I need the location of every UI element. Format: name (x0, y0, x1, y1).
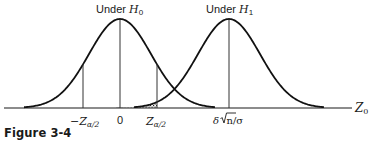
normal-distributions-figure: Under H0 Under H1 −Zα/2 0 Zα/2 δ n/σ Z0 (0, 0, 370, 147)
h1-mean-label: δ n/σ (213, 113, 243, 126)
zero-label: 0 (117, 114, 123, 126)
axis-label-z0: Z0 (354, 101, 368, 116)
svg-text:δ: δ (213, 115, 219, 126)
neg-z-alpha-half-label: −Zα/2 (70, 115, 99, 129)
figure-caption: Figure 3-4 (4, 126, 71, 140)
h0-title: Under H0 (96, 3, 144, 17)
svg-text:n/σ: n/σ (227, 115, 244, 126)
h1-title: Under H1 (206, 3, 254, 17)
pos-z-alpha-half-label: Zα/2 (145, 115, 166, 129)
